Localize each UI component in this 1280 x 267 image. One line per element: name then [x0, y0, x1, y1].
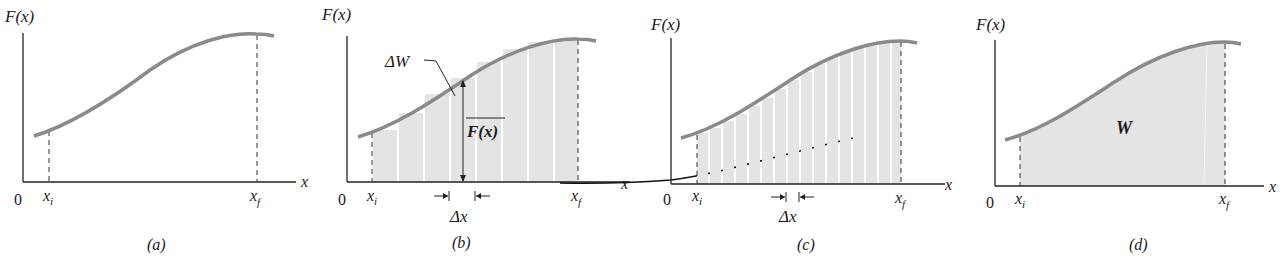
stray-curve: [560, 137, 858, 183]
xf-label: xf: [1218, 190, 1231, 211]
work-area: [1020, 43, 1225, 186]
force-curve: [34, 34, 274, 136]
riemann-strips: [697, 41, 901, 184]
delta-x-label: Δx: [778, 207, 797, 226]
y-axis-label: F(x): [321, 5, 352, 24]
xi-label: xi: [1014, 190, 1025, 210]
panel-c: Δx 0 xi xf x F(x) (c): [650, 15, 952, 254]
x-axis-label: x: [300, 173, 308, 190]
delta-w-label: ΔW: [384, 52, 411, 71]
x-axis-label-b: x: [620, 175, 628, 192]
panel-caption: (c): [797, 236, 815, 254]
origin-label: 0: [986, 194, 994, 211]
xi-label: xi: [42, 187, 53, 207]
xi-label: xi: [366, 187, 377, 207]
xi-label: xi: [691, 187, 702, 207]
delta-x-label: Δx: [449, 207, 468, 226]
panel-caption: (b): [452, 234, 471, 252]
x-axis-label: x: [1268, 178, 1276, 195]
x-axis-label: x: [944, 176, 952, 193]
work-integral-figure: F(x) x 0 xi xf (a) ΔW F(x): [0, 0, 1280, 267]
average-force-label: F(x): [466, 122, 498, 141]
y-axis-label: F(x): [975, 15, 1006, 34]
panel-caption: (d): [1129, 236, 1148, 254]
y-axis-label: F(x): [650, 15, 681, 34]
y-axis-label: F(x): [4, 7, 35, 26]
origin-label: 0: [663, 191, 671, 208]
xf-label: xf: [570, 187, 583, 208]
panel-d: W 0 xi xf x F(x) (d): [975, 15, 1276, 254]
panel-a: F(x) x 0 xi xf (a): [4, 7, 308, 254]
work-label: W: [1116, 118, 1134, 138]
xf-label: xf: [894, 189, 907, 210]
origin-label: 0: [338, 191, 346, 208]
delta-x-marker: [434, 191, 490, 201]
delta-x-marker: [771, 192, 814, 202]
xf-label: xf: [249, 187, 262, 208]
panel-b: ΔW F(x) Δx 0 xi xf F(x) (b): [321, 5, 630, 252]
panel-caption: (a): [147, 236, 166, 254]
origin-label: 0: [14, 191, 22, 208]
